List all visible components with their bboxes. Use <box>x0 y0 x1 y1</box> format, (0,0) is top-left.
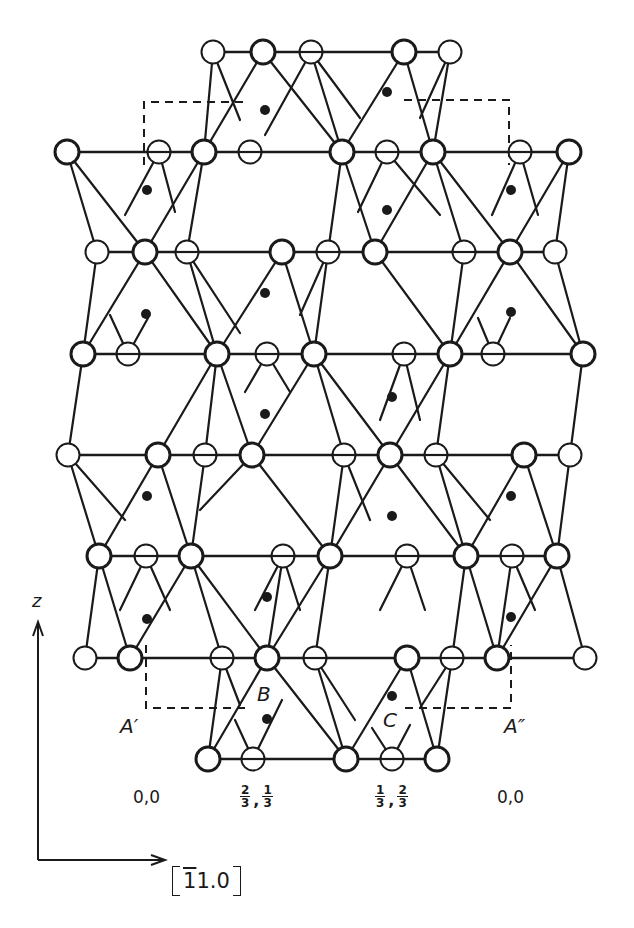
fraction: 23 <box>240 784 250 809</box>
atom-bold <box>571 342 595 366</box>
atom-thin <box>202 41 225 64</box>
cation-dot <box>142 614 152 624</box>
atom-bold <box>205 342 229 366</box>
atom-bold <box>421 140 445 164</box>
bond-line <box>68 354 83 455</box>
atom-bold <box>425 747 449 771</box>
cation-dot <box>260 105 270 115</box>
bond-line <box>510 152 569 252</box>
bond-line <box>436 354 450 455</box>
atom-bold <box>251 40 275 64</box>
cation-dot <box>260 409 270 419</box>
bond-line <box>555 252 583 354</box>
atom-bold <box>240 443 264 467</box>
position-label-b: 23 , 13 <box>240 783 273 810</box>
cation-dot <box>506 185 516 195</box>
atom-thin <box>544 241 567 264</box>
atom-bold <box>87 544 111 568</box>
bond-line <box>436 455 490 520</box>
bond-line <box>191 556 222 658</box>
position-label-right: 0,0 <box>497 787 524 807</box>
cation-dot <box>141 309 151 319</box>
atom-hatched <box>441 647 464 670</box>
bond-line <box>217 252 282 354</box>
cation-dot <box>142 185 152 195</box>
atom-bold <box>498 240 522 264</box>
fraction: 13 <box>375 784 385 809</box>
bond-line <box>67 152 97 252</box>
bond-line <box>375 252 450 354</box>
atom-bold <box>485 646 509 670</box>
bond-line <box>466 556 497 658</box>
atom-hatched <box>396 545 419 568</box>
z-axis-label: z <box>32 590 41 611</box>
cation-dot <box>382 205 392 215</box>
bond-line <box>267 556 330 658</box>
bond-line <box>314 354 344 455</box>
cation-dot <box>142 491 152 501</box>
bond-line <box>390 455 466 556</box>
atom-bold <box>179 544 203 568</box>
anion-sites <box>55 40 597 771</box>
bond-line <box>342 152 375 252</box>
atom-thin <box>439 41 462 64</box>
crystal-structure-diagram <box>0 0 634 928</box>
cation-dot <box>506 491 516 501</box>
atom-hatched <box>333 444 356 467</box>
bond-line <box>466 455 524 556</box>
atom-hatched <box>135 545 158 568</box>
atom-hatched <box>117 343 140 366</box>
bond-line <box>217 354 252 455</box>
atom-bold <box>438 342 462 366</box>
atom-hatched <box>304 647 327 670</box>
bond-line <box>68 455 99 556</box>
atom-bold <box>192 140 216 164</box>
bond-line <box>282 252 314 354</box>
bond-line <box>570 354 583 455</box>
bond-line <box>67 152 145 252</box>
bond-line <box>85 556 99 658</box>
atom-thin <box>74 647 97 670</box>
atom-bold <box>395 646 419 670</box>
atom-thin <box>559 444 582 467</box>
atom-bold <box>318 544 342 568</box>
cation-dot <box>387 392 397 402</box>
atom-bold <box>454 544 478 568</box>
atom-bold <box>363 240 387 264</box>
bond-line <box>314 354 390 455</box>
atom-bold <box>545 544 569 568</box>
bond-line <box>436 455 466 556</box>
bond-line <box>524 455 557 556</box>
cation-dot <box>506 307 516 317</box>
atom-hatched <box>381 748 404 771</box>
position-label-c: 13 , 23 <box>375 783 408 810</box>
atom-bold <box>392 40 416 64</box>
atom-bold <box>270 240 294 264</box>
atom-hatched <box>482 343 505 366</box>
bond-line <box>497 556 512 658</box>
atom-hatched <box>501 545 524 568</box>
label-b: B <box>257 682 271 706</box>
position-label-left: 0,0 <box>133 787 160 807</box>
atom-hatched <box>509 141 532 164</box>
atom-thin <box>574 647 597 670</box>
left-bracket <box>172 866 180 896</box>
bond-line <box>205 354 217 455</box>
bond-line <box>83 252 97 354</box>
bond-line <box>145 252 217 354</box>
bond-line <box>330 455 390 556</box>
bond-line <box>330 455 344 556</box>
bond-line <box>433 152 464 252</box>
atom-bold <box>557 140 581 164</box>
bond-line <box>252 354 314 455</box>
atom-hatched <box>453 241 476 264</box>
bond-line <box>252 455 330 556</box>
atom-bold <box>378 443 402 467</box>
atom-hatched <box>317 241 340 264</box>
bond-line <box>452 556 466 658</box>
cation-dot <box>387 691 397 701</box>
atom-hatched <box>148 141 171 164</box>
atom-hatched <box>300 41 323 64</box>
fraction: 23 <box>397 784 407 809</box>
bond-line <box>497 556 557 658</box>
